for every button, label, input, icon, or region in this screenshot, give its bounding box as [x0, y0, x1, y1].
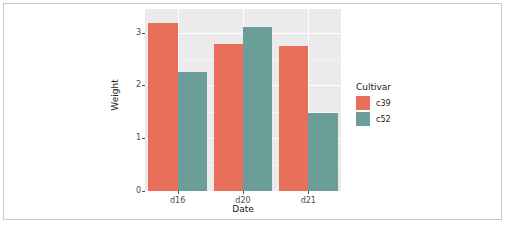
legend-items: c39c52: [356, 96, 426, 126]
x-tick-mark: [243, 191, 244, 194]
legend-label-c39: c39: [376, 99, 391, 108]
x-tick-mark: [308, 191, 309, 194]
bar-d21-c52: [308, 113, 337, 191]
bar-chart: Weight 0123 d16d20d21 Date Cultivar c39c…: [4, 4, 503, 221]
bar-d21-c39: [279, 46, 308, 191]
legend-item-c39: c39: [356, 96, 426, 110]
legend-swatch-c39: [356, 96, 370, 110]
bar-d16-c52: [178, 72, 207, 191]
plot-panel: [145, 9, 341, 191]
bar-d16-c39: [148, 23, 177, 191]
figure-frame: Weight 0123 d16d20d21 Date Cultivar c39c…: [3, 3, 502, 220]
y-tick-label: 0: [117, 186, 141, 196]
bar-d20-c39: [214, 44, 243, 191]
legend-label-c52: c52: [376, 115, 391, 124]
y-axis-ticks: 0123: [116, 9, 141, 191]
y-tick-label: 2: [117, 80, 141, 90]
legend-item-c52: c52: [356, 112, 426, 126]
legend-swatch-c52: [356, 112, 370, 126]
x-tick-mark: [178, 191, 179, 194]
legend: Cultivar c39c52: [356, 82, 426, 128]
y-tick-label: 1: [117, 133, 141, 143]
bar-d20-c52: [243, 27, 272, 191]
x-axis-title: Date: [145, 204, 341, 214]
legend-title: Cultivar: [356, 82, 426, 92]
y-tick-label: 3: [117, 28, 141, 38]
